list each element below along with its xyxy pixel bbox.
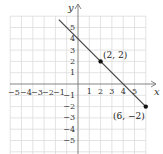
point-label-6-neg2: (6, −2) <box>113 111 145 121</box>
x-tick: 4 <box>121 87 126 96</box>
y-tick: 3 <box>70 46 75 55</box>
x-tick: −5 <box>8 88 20 97</box>
point-6-neg2 <box>144 104 148 108</box>
x-tick: 3 <box>109 87 114 96</box>
x-tick: 2 <box>98 87 103 96</box>
y-axis-label: y <box>67 2 74 13</box>
x-axis-label: x <box>154 86 160 97</box>
y-tick: 1 <box>70 68 75 77</box>
x-tick: 1 <box>87 87 92 96</box>
y-tick: −2 <box>63 102 75 111</box>
y-tick: −4 <box>63 125 75 134</box>
y-tick: 2 <box>70 57 75 66</box>
y-tick: −5 <box>63 136 75 145</box>
y-tick: −1 <box>63 91 75 100</box>
coordinate-plane: x y −5 −4 −3 −2 −1 1 2 3 4 5 5 4 3 2 1 −… <box>0 0 163 154</box>
y-tick: −3 <box>63 113 75 122</box>
point-label-2-2: (2, 2) <box>103 50 127 60</box>
